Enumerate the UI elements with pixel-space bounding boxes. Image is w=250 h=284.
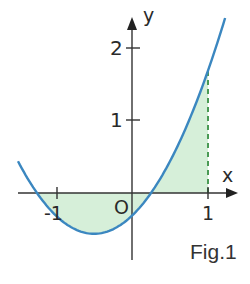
- x-tick-label-minus1: -1: [44, 204, 63, 223]
- figure-caption: Fig.1: [190, 241, 237, 262]
- x-axis-label: x: [222, 166, 233, 185]
- x-axis-arrow-icon: [226, 188, 238, 198]
- y-axis-arrow-icon: [127, 17, 137, 30]
- y-tick-label-1: 1: [110, 110, 123, 130]
- origin-label: O: [114, 198, 129, 217]
- x-tick-label-1: 1: [202, 204, 214, 223]
- y-tick-label-2: 2: [110, 38, 123, 58]
- y-axis-label: y: [143, 6, 154, 25]
